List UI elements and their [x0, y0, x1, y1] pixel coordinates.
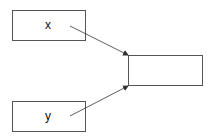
- edges-layer: [0, 0, 220, 140]
- edge-y-to-output-arrow: [70, 86, 128, 116]
- edge-x-to-output-arrow: [70, 26, 128, 55]
